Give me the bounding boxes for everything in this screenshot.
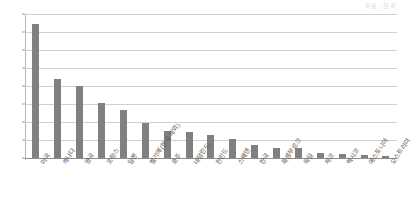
- y-axis-tick-mark: [22, 122, 25, 123]
- bar-slot: [47, 14, 69, 158]
- bar-slot: [91, 14, 113, 158]
- bar-slot: [288, 14, 310, 158]
- y-axis-tick-mark: [22, 140, 25, 141]
- y-axis-tick-mark: [22, 158, 25, 159]
- bar-slot: [331, 14, 353, 158]
- bar-slot: [200, 14, 222, 158]
- bar-slot: [266, 14, 288, 158]
- y-axis-tick-mark: [22, 86, 25, 87]
- plot-area: [25, 14, 397, 159]
- x-axis-category-labels: 미국캐나다영국프랑스일본벨기에(한국 제외)호주네덜란드핀란드스웨덴한국룩셈부르…: [25, 160, 397, 212]
- y-axis-tick-mark: [22, 50, 25, 51]
- y-axis-tick-mark: [22, 68, 25, 69]
- bar-slot: [134, 14, 156, 158]
- bar: [229, 139, 236, 158]
- bar-slot: [25, 14, 47, 158]
- y-axis-tick-mark: [22, 14, 25, 15]
- bar: [186, 132, 193, 158]
- bar: [142, 123, 149, 158]
- bar: [54, 79, 61, 158]
- source-note: 자료 : 한국: [365, 1, 396, 10]
- bar-slot: [244, 14, 266, 158]
- y-axis-tick-mark: [22, 104, 25, 105]
- bar-slot: [69, 14, 91, 158]
- bar-slot: [113, 14, 135, 158]
- bar-slot: [178, 14, 200, 158]
- bar-slot: [222, 14, 244, 158]
- bar-group: [25, 14, 397, 158]
- bar-slot: [353, 14, 375, 158]
- bar-slot: [375, 14, 397, 158]
- bar: [76, 86, 83, 158]
- bar: [98, 103, 105, 158]
- bar: [32, 24, 39, 158]
- bar-slot: [309, 14, 331, 158]
- y-axis-tick-mark: [22, 32, 25, 33]
